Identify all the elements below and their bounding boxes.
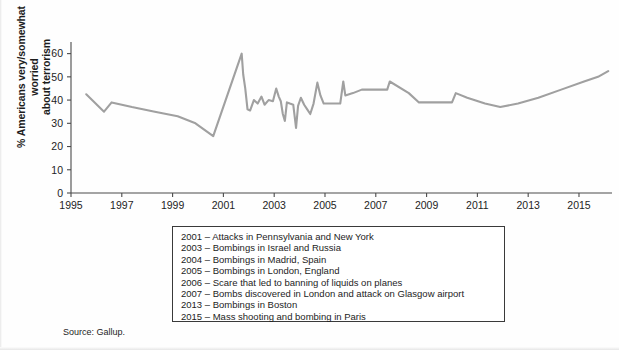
source-note: Source: Gallup. — [63, 327, 125, 337]
x-tick-label: 2003 — [263, 199, 287, 211]
x-tick-label: 2013 — [517, 199, 541, 211]
y-axis-ticks: 0102030405060 — [51, 47, 71, 198]
chart-axes — [71, 42, 612, 193]
y-tick-label: 10 — [51, 164, 63, 176]
events-legend-box: 2001 – Attacks in Pennsylvania and New Y… — [172, 226, 505, 322]
x-tick-label: 2001 — [212, 199, 236, 211]
y-tick-label: 40 — [51, 94, 63, 106]
y-tick-label: 50 — [51, 71, 63, 83]
x-tick-label: 1997 — [110, 199, 134, 211]
x-tick-label: 2007 — [364, 199, 388, 211]
legend-item: 2003 – Bombings in Israel and Russia — [181, 242, 504, 253]
line-chart-svg: 0102030405060 19951997199920012003200520… — [0, 0, 619, 220]
legend-item: 2013 – Bombings in Boston — [181, 299, 504, 310]
legend-item: 2001 – Attacks in Pennsylvania and New Y… — [181, 231, 504, 242]
x-axis-ticks: 1995199719992001200320052007200920112013… — [59, 193, 591, 211]
legend-item: 2007 – Bombs discovered in London and at… — [181, 288, 504, 299]
x-tick-label: 1995 — [59, 199, 83, 211]
x-tick-label: 2005 — [313, 199, 337, 211]
x-tick-label: 2015 — [567, 199, 591, 211]
y-tick-label: 60 — [51, 47, 63, 59]
series-line-worried-about-terrorism — [86, 54, 608, 136]
y-tick-label: 20 — [51, 140, 63, 152]
legend-item: 2005 – Bombings in London, England — [181, 265, 504, 276]
legend-item: 2015 – Mass shooting and bombing in Pari… — [181, 311, 504, 322]
legend-item: 2006 – Scare that led to banning of liqu… — [181, 277, 504, 288]
x-tick-label: 2009 — [415, 199, 439, 211]
figure-page: % Americans very/somewhat worried about … — [0, 0, 619, 350]
chart-plot-region: % Americans very/somewhat worried about … — [0, 0, 619, 220]
y-tick-label: 30 — [51, 117, 63, 129]
y-tick-label: 0 — [57, 187, 63, 199]
x-tick-label: 2011 — [466, 199, 489, 211]
x-tick-label: 1999 — [161, 199, 185, 211]
legend-item: 2004 – Bombings in Madrid, Spain — [181, 254, 504, 265]
